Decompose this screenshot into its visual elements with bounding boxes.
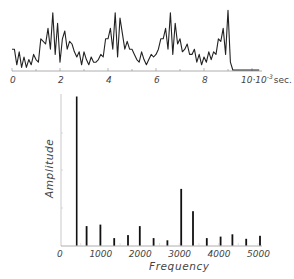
spectrum-bar [100,225,102,246]
waveform-tick-label: 8 [202,75,208,85]
spectrum-tick-label: 5000 [247,249,270,259]
spectrum-bar [192,211,194,245]
spectrum-bar [220,237,222,246]
spectrum-bars [76,97,261,246]
spectrum-bar [76,97,78,246]
waveform-tick-label: 0 [10,75,16,85]
waveform-x-ticks [12,68,252,71]
waveform-x-unit: 10·10-3sec. [241,73,292,85]
waveform-tick-label: 2 [58,75,64,85]
spectrum-tick-label: 1000 [89,249,112,259]
spectrum-bar [86,226,88,245]
spectrum-bar [127,235,129,245]
spectrum-bar [232,234,234,245]
spectrum-tick-label: 0 [57,249,63,259]
waveform-line [12,10,259,70]
spectrum-bar [245,239,247,246]
waveform-x-tick-labels: 02468 [10,75,208,85]
waveform-tick-label: 6 [154,75,160,85]
spectrum-y-label: Amplitude [43,139,55,199]
figure: 02468 10·10-3sec. 010002000300040005000 … [0,0,294,279]
spectrum-y-ticks [61,133,258,246]
spectrum-x-tick-labels: 010002000300040005000 [57,249,270,259]
spectrum-tick-label: 3000 [168,249,191,259]
spectrum-tick-label: 4000 [208,249,231,259]
spectrum-plot: 010002000300040005000 Frequency Amplitud… [43,94,270,272]
waveform-plot: 02468 10·10-3sec. [10,10,292,85]
spectrum-bar [206,238,208,246]
spectrum-bar [113,238,115,246]
spectrum-bar [259,236,261,246]
spectrum-bar [139,226,141,245]
spectrum-bar [153,238,155,246]
waveform-tick-label: 4 [106,75,112,85]
spectrum-bar [180,189,182,246]
spectrum-tick-label: 2000 [129,249,152,259]
spectrum-x-label: Frequency [149,260,210,272]
spectrum-bar [167,240,169,245]
